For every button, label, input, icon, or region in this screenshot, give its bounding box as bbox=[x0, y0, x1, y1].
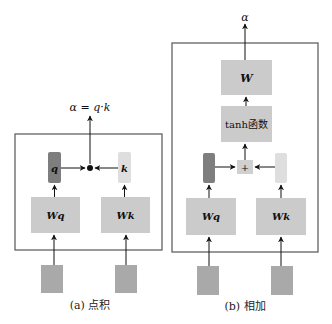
key-label: k bbox=[121, 163, 128, 174]
input-key bbox=[115, 265, 137, 293]
attention-diagram: α = q·k q k Wq Wk (a) 点积 α W bbox=[0, 0, 332, 324]
panel-b-output-label: α bbox=[241, 11, 249, 24]
wq-label: Wq bbox=[202, 211, 220, 222]
panel-a-caption: (a) 点积 bbox=[70, 299, 111, 312]
query-label: q bbox=[51, 163, 58, 174]
w-label: W bbox=[240, 72, 254, 85]
panel-a-output-label: α = q·k bbox=[70, 101, 111, 114]
key-vector bbox=[275, 153, 287, 183]
input-query bbox=[197, 266, 219, 295]
wk-label: Wk bbox=[116, 210, 134, 221]
wq-label: Wq bbox=[46, 210, 64, 221]
input-key bbox=[271, 266, 293, 295]
add-symbol: + bbox=[241, 162, 249, 173]
tanh-label: tanh函数 bbox=[225, 118, 268, 130]
panel-b-additive: α W tanh函数 + Wq Wk (b) 相加 bbox=[172, 11, 318, 313]
panel-b-caption: (b) 相加 bbox=[224, 300, 265, 313]
input-query bbox=[41, 265, 63, 293]
panel-a-dot-product: α = q·k q k Wq Wk (a) 点积 bbox=[15, 101, 162, 312]
query-vector bbox=[203, 153, 215, 183]
dot-product-operator bbox=[87, 165, 93, 171]
wk-label: Wk bbox=[272, 211, 290, 222]
